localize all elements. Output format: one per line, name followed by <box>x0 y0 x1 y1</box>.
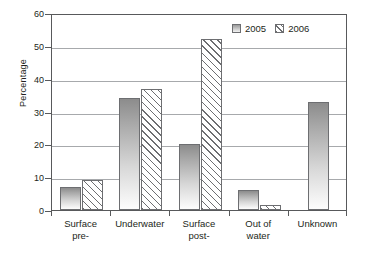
category-label-line1: Surface <box>183 218 216 229</box>
legend-entry-2005: 2005 <box>232 23 266 34</box>
y-axis-tick-label: 20 <box>22 141 44 150</box>
gridline <box>52 48 346 49</box>
y-axis-tick-label: 0 <box>22 207 44 216</box>
x-axis-tick-mark <box>110 211 111 216</box>
bar-2005-unknown <box>308 102 329 210</box>
bar-2006-surface-pre <box>82 180 103 210</box>
y-axis-tick-label: 60 <box>22 10 44 19</box>
y-axis-tick-label: 50 <box>22 43 44 52</box>
y-axis-tick-mark <box>45 145 51 146</box>
x-axis-tick-mark <box>169 211 170 216</box>
category-label-line2: water <box>229 230 288 242</box>
category-label-line1: Unknown <box>298 218 338 229</box>
gridline <box>52 81 346 82</box>
plot-area <box>51 14 347 211</box>
legend-entry-2006: 2006 <box>275 23 309 34</box>
y-axis-tick-mark <box>45 80 51 81</box>
x-axis-tick-mark <box>51 211 52 216</box>
y-axis-tick-mark <box>45 14 51 15</box>
x-axis-tick-mark <box>229 211 230 216</box>
chart-legend: 20052006 <box>232 23 309 34</box>
bar-2005-surface-pre <box>60 187 81 210</box>
category-label-line1: Surface <box>64 218 97 229</box>
bar-2006-surface-post <box>201 39 222 210</box>
category-label-line1: Out of <box>245 218 271 229</box>
bar-2005-underwater <box>119 98 140 210</box>
x-axis-tick-mark <box>346 211 347 216</box>
legend-label: 2005 <box>245 23 266 34</box>
bar-2005-surface-post <box>179 144 200 210</box>
y-axis-tick-mark <box>45 113 51 114</box>
x-axis-tick-mark <box>288 211 289 216</box>
y-axis-tick-mark <box>45 47 51 48</box>
category-label-line2: post- <box>169 230 228 242</box>
x-axis-category-label: Out ofwater <box>229 218 288 242</box>
x-axis-category-label: Surfacepost- <box>169 218 228 242</box>
x-axis-category-label: Surfacepre- <box>51 218 110 242</box>
bar-2006-out-of-water <box>260 205 281 210</box>
x-axis-category-label: Underwater <box>110 218 169 230</box>
bar-2005-out-of-water <box>238 190 259 210</box>
y-axis-tick-label: 40 <box>22 76 44 85</box>
bar-chart: Percentage 0102030405060 20052006 Surfac… <box>0 0 368 260</box>
legend-label: 2006 <box>288 23 309 34</box>
legend-swatch-icon <box>275 24 284 33</box>
x-axis-category-label: Unknown <box>288 218 347 230</box>
category-label-line2: pre- <box>51 230 110 242</box>
y-axis-tick-mark <box>45 178 51 179</box>
gridline <box>52 114 346 115</box>
legend-swatch-icon <box>232 24 241 33</box>
y-axis-tick-labels: 0102030405060 <box>22 0 44 260</box>
y-axis-tick-label: 10 <box>22 174 44 183</box>
bar-2006-underwater <box>141 89 162 210</box>
category-label-line1: Underwater <box>115 218 164 229</box>
y-axis-tick-label: 30 <box>22 109 44 118</box>
